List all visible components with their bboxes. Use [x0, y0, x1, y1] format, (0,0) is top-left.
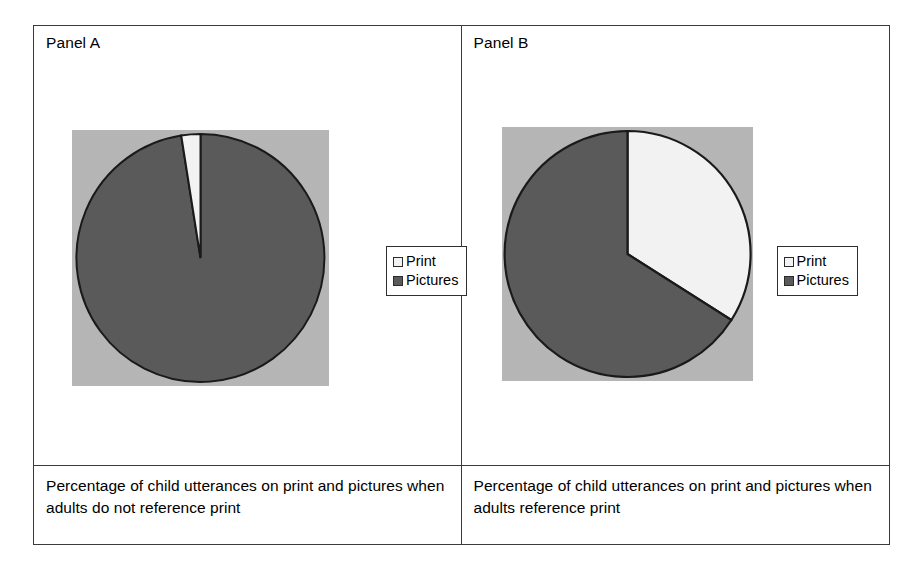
panel-a-chart — [72, 130, 329, 386]
panel-b-legend-label-pictures: Pictures — [797, 271, 849, 290]
figure-frame: Panel A Print Pictures — [33, 25, 890, 545]
panel-a-pie-svg — [72, 130, 329, 386]
panel-b-chart — [502, 127, 753, 381]
panel-b-legend-label-print: Print — [797, 252, 827, 271]
panel-b-legend-item-pictures: Pictures — [784, 271, 849, 290]
panel-b-legend: Print Pictures — [777, 246, 858, 296]
panel-a-cell: Panel A Print Pictures — [34, 26, 462, 465]
panel-a-legend: Print Pictures — [386, 246, 467, 296]
caption-row: Percentage of child utterances on print … — [34, 465, 889, 544]
legend-swatch-pictures-icon — [393, 276, 403, 286]
panel-b-caption: Percentage of child utterances on print … — [474, 475, 878, 519]
panel-a-legend-item-print: Print — [393, 252, 458, 271]
panel-b-caption-cell: Percentage of child utterances on print … — [462, 466, 890, 544]
panel-a-title: Panel A — [46, 34, 100, 52]
legend-swatch-pictures-icon — [784, 276, 794, 286]
panel-a-caption-cell: Percentage of child utterances on print … — [34, 466, 462, 544]
panel-b-title: Panel B — [474, 34, 529, 52]
legend-swatch-print-icon — [784, 257, 794, 267]
panel-a-legend-item-pictures: Pictures — [393, 271, 458, 290]
panel-b-pie-svg — [502, 127, 753, 381]
panel-row: Panel A Print Pictures — [34, 26, 889, 465]
legend-swatch-print-icon — [393, 257, 403, 267]
panel-a-legend-label-print: Print — [406, 252, 436, 271]
panel-a-legend-label-pictures: Pictures — [406, 271, 458, 290]
panel-a-caption: Percentage of child utterances on print … — [46, 475, 449, 519]
panel-b-cell: Panel B Print Pictures — [462, 26, 890, 465]
panel-b-legend-item-print: Print — [784, 252, 849, 271]
